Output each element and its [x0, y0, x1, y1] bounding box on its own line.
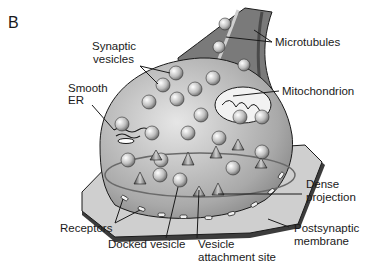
svg-text:Synaptic: Synaptic — [92, 40, 136, 52]
svg-text:attachment site: attachment site — [198, 251, 276, 263]
panel-label: B — [8, 14, 19, 31]
svg-text:Mitochondrion: Mitochondrion — [282, 85, 354, 97]
svg-text:ER: ER — [68, 94, 84, 106]
svg-text:Microtubules: Microtubules — [275, 36, 340, 48]
label-smooth-er: Smooth ER — [68, 82, 114, 130]
svg-text:Dense: Dense — [306, 178, 339, 190]
svg-text:vesicles: vesicles — [93, 53, 134, 65]
svg-text:projection: projection — [306, 191, 356, 203]
svg-text:Vesicle: Vesicle — [198, 238, 234, 250]
svg-text:Smooth: Smooth — [68, 82, 108, 94]
svg-text:Receptors: Receptors — [60, 222, 113, 234]
svg-text:Postsynaptic: Postsynaptic — [294, 222, 359, 234]
synapse-diagram: B Synaptic vesicles Smooth ER Microtubul… — [0, 0, 368, 275]
svg-text:membrane: membrane — [294, 235, 349, 247]
svg-text:Docked vesicle: Docked vesicle — [108, 238, 185, 250]
